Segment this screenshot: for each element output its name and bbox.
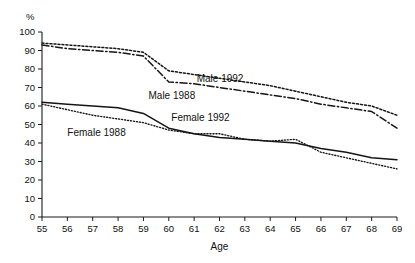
x-tick-label: 56 [62, 223, 73, 234]
series-label-1: Male 1988 [149, 90, 196, 101]
x-tick-label: 67 [341, 223, 352, 234]
y-tick-label: 100 [19, 26, 35, 37]
x-tick-label: 58 [113, 223, 124, 234]
y-tick-label: 90 [24, 45, 35, 56]
x-tick-label: 66 [316, 223, 327, 234]
y-tick-label: 10 [24, 193, 35, 204]
x-tick-label: 62 [214, 223, 225, 234]
y-tick-label: 30 [24, 156, 35, 167]
x-tick-label: 60 [163, 223, 174, 234]
series-label-2: Female 1992 [171, 112, 230, 123]
x-tick-label: 69 [392, 223, 403, 234]
x-tick-label: 68 [366, 223, 377, 234]
series-label-3: Female 1988 [67, 127, 126, 138]
chart-figure: 0102030405060708090100 55565758596061626… [0, 0, 415, 263]
x-tick-label: 57 [87, 223, 98, 234]
line-chart: 0102030405060708090100 55565758596061626… [0, 0, 415, 263]
x-tick-label: 64 [265, 223, 276, 234]
x-tick-label: 65 [290, 223, 301, 234]
y-axis-unit-label: % [26, 11, 35, 22]
x-tick-label: 63 [240, 223, 251, 234]
y-tick-label: 40 [24, 137, 35, 148]
x-tick-label: 61 [189, 223, 200, 234]
y-tick-label: 80 [24, 63, 35, 74]
x-axis-title: Age [211, 241, 229, 252]
y-tick-label: 70 [24, 82, 35, 93]
x-tick-label: 59 [138, 223, 149, 234]
y-tick-label: 20 [24, 174, 35, 185]
y-tick-label: 60 [24, 100, 35, 111]
y-tick-label: 0 [30, 211, 35, 222]
y-tick-label: 50 [24, 119, 35, 130]
x-tick-label: 55 [37, 223, 48, 234]
series-label-0: Male 1992 [197, 73, 244, 84]
